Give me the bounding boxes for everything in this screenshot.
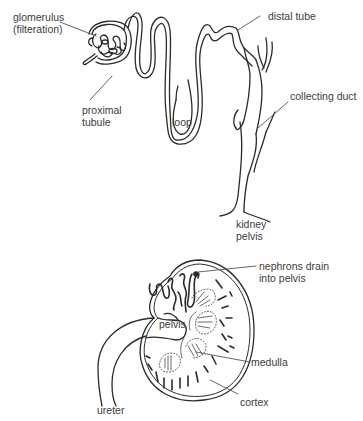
label-nephrons-drain: nephrons drain into pelvis	[259, 260, 329, 284]
label-loop: loop	[172, 116, 192, 128]
cortex-markings	[146, 280, 234, 390]
label-pelvis: pelvis	[159, 318, 186, 330]
label-kidney-pelvis: kidney pelvis	[236, 218, 266, 242]
pyramid-striations	[165, 292, 212, 370]
label-proximal-tubule: proximal tubule	[82, 104, 122, 128]
kidney-nephron-diagram: glomerulus (filteration) distal tube pro…	[0, 0, 363, 421]
kidney-illustration	[98, 260, 254, 406]
diagram-artwork	[0, 0, 363, 421]
label-cortex: cortex	[240, 396, 269, 408]
leader-medulla	[196, 352, 250, 362]
label-glomerulus: glomerulus (filteration)	[13, 11, 64, 35]
label-collecting-duct: collecting duct	[290, 90, 357, 102]
label-medulla: medulla	[251, 356, 288, 368]
leader-distal-tube	[238, 16, 260, 30]
leader-collecting-duct	[258, 102, 288, 128]
leader-proximal-tubule	[90, 76, 112, 100]
kidney-leader-lines	[196, 266, 256, 394]
label-ureter: ureter	[97, 404, 124, 416]
collecting-duct-shape	[220, 38, 275, 222]
leader-nephrons-drain	[198, 266, 256, 272]
label-distal-tube: distal tube	[268, 10, 316, 22]
nephrons-in-kidney	[149, 272, 198, 312]
